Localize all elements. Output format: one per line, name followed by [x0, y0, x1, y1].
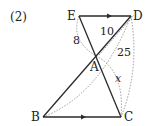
label-C: C [124, 110, 133, 124]
parallel-arrow-ED-icon [107, 14, 112, 19]
arc-DC [121, 16, 134, 117]
measure-DC: 25 [117, 46, 131, 59]
segment-DB [43, 16, 131, 117]
parallel-arrow-BC-icon [81, 115, 86, 120]
label-B: B [31, 110, 40, 124]
label-D: D [133, 9, 143, 23]
label-E: E [67, 9, 76, 23]
geometry-diagram: (2) E D A B C 8 10 25 x [0, 0, 150, 126]
measure-AD: 10 [100, 25, 114, 38]
problem-number: (2) [10, 10, 27, 24]
solid-segments [43, 16, 131, 117]
measure-EA: 8 [73, 34, 80, 47]
label-A: A [89, 60, 99, 74]
measure-AC: x [115, 72, 122, 85]
